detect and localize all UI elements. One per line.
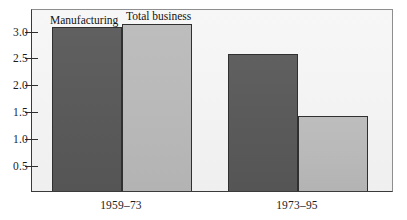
y-tick-label: 0.5	[13, 160, 28, 172]
bar-manufacturing-1	[228, 54, 298, 191]
y-tick-mark-inner	[32, 166, 38, 167]
bar-total-business-1	[298, 116, 368, 191]
y-tick-label: 2.0	[13, 79, 28, 91]
y-tick-mark-inner	[32, 58, 38, 59]
plot-area: 0.51.01.52.02.53.0 Manufacturing Total b…	[31, 9, 393, 192]
series-label-total-business: Total business	[126, 11, 191, 23]
y-tick-mark-inner	[32, 85, 38, 86]
y-tick-mark-inner	[32, 139, 38, 140]
y-tick-label: 1.5	[13, 106, 28, 118]
y-tick-mark-inner	[32, 32, 38, 33]
y-tick-label: 3.0	[13, 26, 28, 38]
y-tick-label: 1.0	[13, 133, 28, 145]
bar-manufacturing-0	[52, 27, 122, 191]
bar-chart-figure: 0.51.01.52.02.53.0 Manufacturing Total b…	[0, 0, 407, 220]
x-tick-label: 1959–73	[100, 199, 142, 211]
bar-total-business-0	[122, 24, 192, 191]
series-label-manufacturing: Manufacturing	[50, 15, 118, 27]
y-tick-label: 2.5	[13, 52, 28, 64]
x-tick-label: 1973–95	[276, 199, 318, 211]
y-tick-mark-inner	[32, 112, 38, 113]
